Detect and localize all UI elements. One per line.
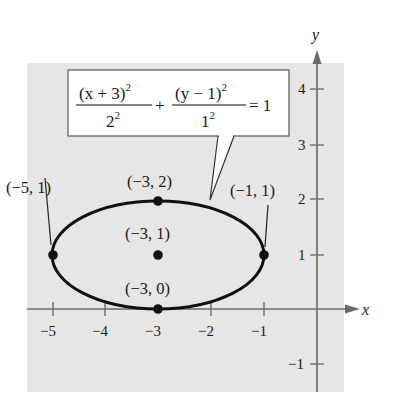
point-right-vertex <box>259 250 269 260</box>
point-left-vertex <box>48 250 58 260</box>
x-tick-label: −3 <box>145 323 161 339</box>
x-tick-label: −4 <box>92 323 108 339</box>
point-label-left: (−5, 1) <box>6 178 51 197</box>
x-tick-label: −2 <box>198 323 214 339</box>
y-axis-arrow-icon <box>313 50 322 64</box>
y-axis-label: y <box>310 26 320 44</box>
point-label-top: (−3, 2) <box>127 172 172 191</box>
equation-plus: + <box>155 96 165 115</box>
point-top-co-vertex <box>153 196 163 206</box>
equation-term2-numerator: (y − 1)2 <box>175 81 227 103</box>
y-tick-label: −1 <box>288 356 304 372</box>
point-label-bottom: (−3, 0) <box>125 279 170 298</box>
x-tick-label: −1 <box>251 323 267 339</box>
ellipse-figure: x y −5 −4 −3 −2 −1 4 3 2 1 −1 <box>0 0 397 411</box>
y-tick-label: 1 <box>298 247 306 263</box>
x-axis-label: x <box>361 301 369 318</box>
equation-equals: = 1 <box>249 96 271 115</box>
point-bottom-co-vertex <box>153 304 163 314</box>
y-tick-label: 2 <box>298 191 306 207</box>
point-center <box>153 250 163 260</box>
x-axis-arrow-icon <box>345 305 360 314</box>
x-tick-label: −5 <box>40 323 56 339</box>
point-label-center: (−3, 1) <box>125 224 170 243</box>
equation-term1-numerator: (x + 3)2 <box>79 81 131 103</box>
point-label-right: (−1, 1) <box>230 181 275 200</box>
y-tick-label: 4 <box>298 81 306 97</box>
y-tick-label: 3 <box>298 137 306 153</box>
